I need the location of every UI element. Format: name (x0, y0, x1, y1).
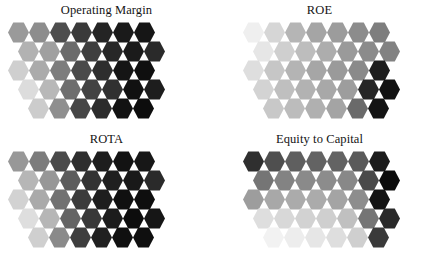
hex-cell (91, 98, 112, 119)
hex-cell (39, 208, 60, 229)
hex-cell (369, 151, 390, 172)
hex-cell (81, 41, 102, 62)
hex-cell (29, 151, 50, 172)
hex-cell (274, 41, 295, 62)
hex-cell (71, 60, 92, 81)
hex-cell (50, 22, 71, 43)
hex-cell (144, 170, 165, 191)
hex-cell (305, 98, 326, 119)
hex-cell (316, 208, 337, 229)
hex-cell (358, 41, 379, 62)
hex-cell (102, 208, 123, 229)
hex-cell (92, 189, 113, 210)
hex-cell (369, 189, 390, 210)
hex-cell (8, 189, 29, 210)
hex-cell (295, 208, 316, 229)
hex-cell (264, 189, 285, 210)
panel-roe: ROE (213, 0, 426, 129)
hex-cell (70, 227, 91, 248)
hex-cell (123, 170, 144, 191)
hex-cell (112, 227, 133, 248)
hex-cell (71, 22, 92, 43)
panel-title: ROTA (0, 131, 213, 147)
hex-cell (285, 22, 306, 43)
hex-cell (133, 98, 154, 119)
hex-cell (81, 208, 102, 229)
hex-cell (368, 98, 389, 119)
hex-cell (29, 60, 50, 81)
hex-cell (326, 98, 347, 119)
hex-cell (28, 227, 49, 248)
hex-cell (337, 170, 358, 191)
hex-cell (92, 22, 113, 43)
hex-cell (112, 98, 133, 119)
hex-cell (29, 189, 50, 210)
hex-grid (213, 22, 426, 126)
hex-cell (144, 208, 165, 229)
hex-cell (50, 189, 71, 210)
hex-cell (253, 170, 274, 191)
hex-cell (306, 189, 327, 210)
hex-cell (113, 189, 134, 210)
hex-cell (327, 22, 348, 43)
hex-cell (285, 151, 306, 172)
hex-cell (60, 170, 81, 191)
hex-cell (123, 41, 144, 62)
hex-cell (39, 41, 60, 62)
hex-cell (50, 60, 71, 81)
hex-cell (81, 170, 102, 191)
panel-title: Operating Margin (0, 2, 213, 18)
hex-cell (348, 151, 369, 172)
hex-cell (327, 60, 348, 81)
panel-equity-capital: Equity to Capital (213, 129, 426, 258)
hex-cell (253, 41, 274, 62)
hex-cell (358, 79, 379, 100)
hex-cell (28, 98, 49, 119)
hex-cell (284, 227, 305, 248)
hex-cell (134, 151, 155, 172)
hex-cell (102, 41, 123, 62)
hex-cell (337, 41, 358, 62)
hex-cell (348, 189, 369, 210)
hex-cell (39, 79, 60, 100)
hex-cell (123, 79, 144, 100)
hex-cell (347, 227, 368, 248)
hex-cell (337, 208, 358, 229)
hex-row (28, 227, 154, 249)
hex-cell (253, 79, 274, 100)
hex-row (263, 227, 389, 249)
hex-cell (134, 22, 155, 43)
hex-cell (243, 189, 264, 210)
hex-cell (368, 227, 389, 248)
hex-cell (369, 60, 390, 81)
hex-row (263, 98, 389, 120)
hex-cell (369, 22, 390, 43)
hex-cell (358, 170, 379, 191)
hex-cell (379, 208, 400, 229)
hex-cell (264, 60, 285, 81)
hex-cell (295, 41, 316, 62)
hex-cell (264, 22, 285, 43)
hex-cell (274, 170, 295, 191)
hex-cell (102, 170, 123, 191)
hex-cell (285, 189, 306, 210)
hex-cell (337, 79, 358, 100)
panel-title: Equity to Capital (213, 131, 426, 147)
hex-cell (50, 151, 71, 172)
hex-cell (284, 98, 305, 119)
hex-cell (327, 151, 348, 172)
hex-cell (81, 79, 102, 100)
hex-cell (113, 151, 134, 172)
hex-cell (263, 98, 284, 119)
hex-cell (18, 41, 39, 62)
hex-cell (18, 79, 39, 100)
hex-cell (306, 22, 327, 43)
panel-title: ROE (213, 2, 426, 18)
hex-cell (60, 41, 81, 62)
hex-cell (60, 79, 81, 100)
hex-grid (0, 22, 221, 126)
hex-cell (39, 170, 60, 191)
hex-cell (29, 22, 50, 43)
som-component-planes-figure: Operating Margin ROE ROTA Equity to Capi… (0, 0, 426, 258)
hex-cell (123, 208, 144, 229)
